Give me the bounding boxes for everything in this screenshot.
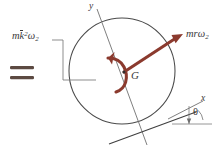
center-of-mass-label: G bbox=[131, 70, 139, 81]
equals-sign bbox=[10, 66, 34, 79]
moment-label-k-bar: k bbox=[20, 31, 25, 42]
incline-tangent-line bbox=[109, 112, 196, 144]
linear-momentum-vector-arrow bbox=[124, 34, 183, 72]
moment-label-subscript: 2 bbox=[35, 35, 38, 42]
disk-circle bbox=[69, 18, 175, 124]
free-body-diagram-figure: mk2ω2 mrω2 G y x θ bbox=[0, 0, 223, 159]
y-axis-label: y bbox=[89, 2, 93, 12]
theta-tick-arrowhead bbox=[187, 119, 191, 124]
x-axis-label: x bbox=[201, 94, 205, 104]
moment-of-inertia-label: mk2ω2 bbox=[12, 31, 39, 43]
momentum-label-mr: mr bbox=[186, 28, 198, 39]
linear-momentum-label: mrω2 bbox=[186, 29, 209, 41]
center-of-mass-point bbox=[123, 71, 126, 74]
theta-arc bbox=[198, 110, 203, 120]
y-axis-line bbox=[97, 9, 147, 145]
moment-leader-line bbox=[52, 40, 96, 80]
moment-label-m: m bbox=[12, 30, 20, 41]
incline-angle-label: θ bbox=[193, 107, 198, 118]
diagram-canvas bbox=[0, 0, 223, 159]
momentum-label-subscript: 2 bbox=[205, 33, 208, 40]
momentum-label-omega: ω bbox=[198, 28, 205, 39]
